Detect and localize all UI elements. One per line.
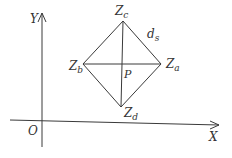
point-p-label: P [124, 69, 131, 80]
x-axis-label: X [209, 131, 218, 143]
diagram-canvas: Y X O Zc Za Zb Zd P ds [0, 0, 232, 158]
point-zb-label: Zb [69, 60, 83, 72]
edge-ds-sub: s [155, 33, 160, 43]
edge-ds-label: ds [147, 28, 159, 40]
edge-ds-base: d [147, 27, 155, 41]
point-za-label: Za [166, 58, 180, 70]
y-axis-label: Y [30, 13, 38, 25]
point-zc-label: Zc [115, 5, 128, 17]
x-axis [10, 120, 219, 125]
point-zb-sub: b [77, 65, 83, 75]
point-zc-sub: c [123, 10, 128, 20]
origin-label: O [28, 125, 38, 137]
point-za-sub: a [174, 63, 179, 73]
point-zd-sub: d [132, 112, 138, 122]
point-zd-label: Zd [124, 107, 138, 119]
